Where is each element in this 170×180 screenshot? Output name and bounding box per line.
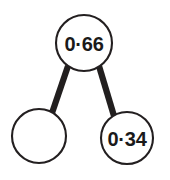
number-bond-diagram: 0·66 0·34 xyxy=(0,0,170,180)
whole-value-label: 0·66 xyxy=(64,33,103,55)
connector-whole-to-part-left xyxy=(52,66,68,113)
node-part-left[interactable] xyxy=(12,109,66,163)
node-part-right[interactable]: 0·34 xyxy=(101,112,153,164)
diagram-canvas: 0·66 0·34 xyxy=(0,0,170,180)
part-left-circle[interactable] xyxy=(12,109,66,163)
part-right-value-label: 0·34 xyxy=(107,128,147,150)
connector-whole-to-part-right xyxy=(99,66,114,116)
node-whole[interactable]: 0·66 xyxy=(56,15,112,71)
